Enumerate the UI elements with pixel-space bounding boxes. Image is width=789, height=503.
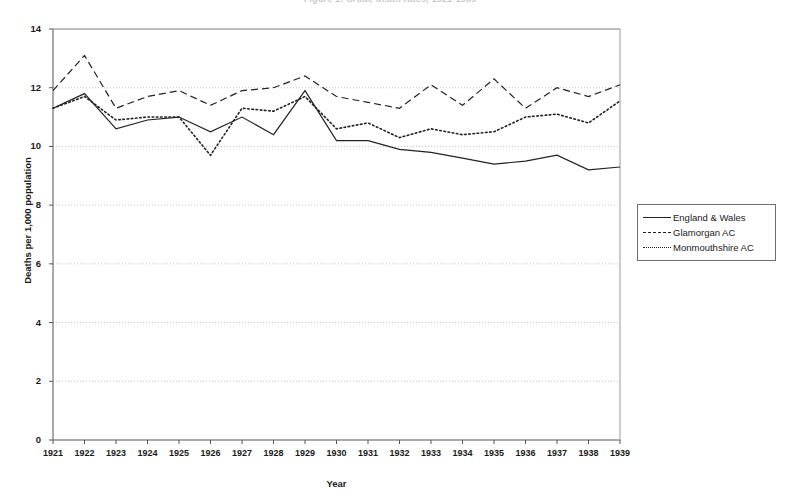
x-axis-tick-label: 1922 bbox=[68, 448, 102, 458]
data-series-line bbox=[53, 91, 620, 170]
legend-item-label: Glamorgan AC bbox=[672, 227, 735, 238]
x-axis-tick-label: 1929 bbox=[288, 448, 322, 458]
legend-item[interactable]: Glamorgan AC bbox=[642, 225, 771, 240]
legend-line-swatch-dashed-icon bbox=[642, 228, 672, 238]
x-axis-title: Year bbox=[53, 478, 620, 489]
x-axis-ticks bbox=[53, 440, 620, 444]
legend-item[interactable]: Monmouthshire AC bbox=[642, 240, 771, 255]
y-axis-tick-label: 4 bbox=[11, 318, 41, 328]
x-axis-tick-label: 1921 bbox=[36, 448, 70, 458]
y-axis-tick-label: 0 bbox=[11, 435, 41, 445]
x-axis-tick-label: 1932 bbox=[383, 448, 417, 458]
x-axis-tick-label: 1927 bbox=[225, 448, 259, 458]
x-axis-tick-label: 1936 bbox=[509, 448, 543, 458]
chart-figure: Figure 1: Crude death rates, 1921-1939 0… bbox=[0, 0, 789, 503]
y-axis-ticks bbox=[49, 29, 53, 440]
x-axis-tick-label: 1933 bbox=[414, 448, 448, 458]
legend-line-swatch-dotted-icon bbox=[642, 243, 672, 253]
x-axis-tick-label: 1923 bbox=[99, 448, 133, 458]
x-axis-tick-label: 1935 bbox=[477, 448, 511, 458]
gridlines bbox=[53, 88, 620, 382]
data-series-group bbox=[53, 55, 620, 169]
legend-item-label: Monmouthshire AC bbox=[672, 242, 754, 253]
x-axis-tick-label: 1926 bbox=[194, 448, 228, 458]
axis-lines bbox=[53, 29, 620, 440]
chart-legend: England & Wales Glamorgan AC Monmouthshi… bbox=[637, 204, 776, 261]
x-axis-tick-label: 1928 bbox=[257, 448, 291, 458]
legend-item[interactable]: England & Wales bbox=[642, 210, 771, 225]
data-series-line bbox=[53, 97, 620, 156]
x-axis-tick-label: 1934 bbox=[446, 448, 480, 458]
y-axis-title: Deaths per 1,000 population bbox=[22, 131, 33, 311]
legend-line-swatch-solid-icon bbox=[642, 213, 672, 223]
y-axis-tick-label: 14 bbox=[11, 24, 41, 34]
y-axis-tick-label: 2 bbox=[11, 376, 41, 386]
x-axis-tick-label: 1939 bbox=[603, 448, 637, 458]
x-axis-tick-label: 1925 bbox=[162, 448, 196, 458]
x-axis-tick-label: 1930 bbox=[320, 448, 354, 458]
legend-item-label: England & Wales bbox=[672, 212, 746, 223]
y-axis-tick-label: 12 bbox=[11, 83, 41, 93]
x-axis-tick-label: 1924 bbox=[131, 448, 165, 458]
x-axis-tick-label: 1931 bbox=[351, 448, 385, 458]
x-axis-tick-label: 1938 bbox=[572, 448, 606, 458]
x-axis-tick-label: 1937 bbox=[540, 448, 574, 458]
data-series-line bbox=[53, 55, 620, 108]
